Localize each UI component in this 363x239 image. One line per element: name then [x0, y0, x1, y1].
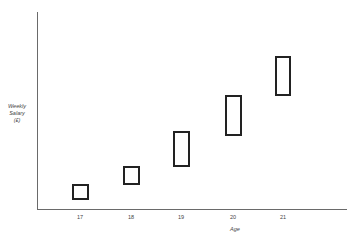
x-tick-20: 20 — [230, 214, 236, 220]
x-tick-17: 17 — [77, 214, 83, 220]
x-tick-18: 18 — [128, 214, 134, 220]
range-box-age-20 — [225, 95, 242, 136]
y-label-line-2: Salary — [2, 110, 32, 117]
range-box-age-21 — [275, 56, 291, 96]
y-axis — [37, 12, 38, 210]
y-axis-label: Weekly Salary (£) — [2, 103, 32, 124]
y-label-line-1: Weekly — [2, 103, 32, 110]
range-box-age-19 — [173, 131, 190, 167]
range-box-age-18 — [123, 166, 140, 185]
x-tick-19: 19 — [178, 214, 184, 220]
range-box-age-17 — [72, 184, 89, 200]
x-axis — [37, 209, 347, 210]
x-axis-label: Age — [230, 226, 240, 232]
y-label-line-3: (£) — [2, 117, 32, 124]
x-tick-21: 21 — [280, 214, 286, 220]
